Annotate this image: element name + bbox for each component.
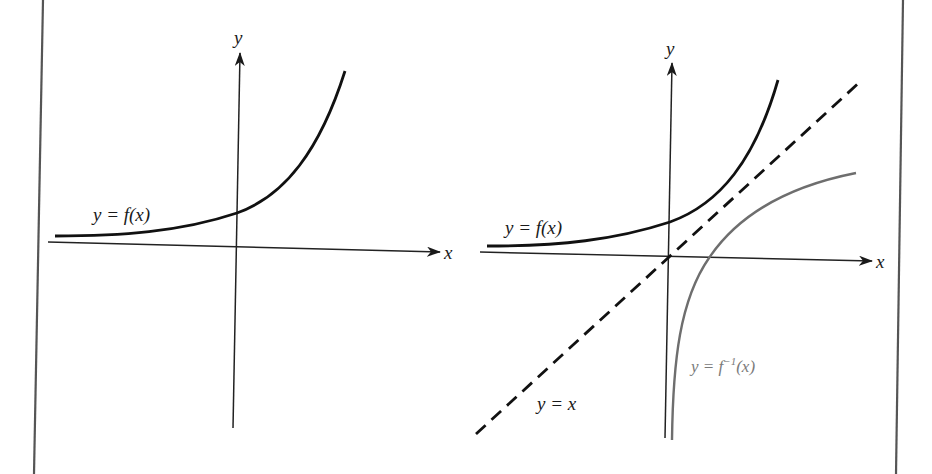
right-y-axis bbox=[665, 63, 672, 438]
left-x-axis-label: x bbox=[443, 242, 453, 263]
right-border bbox=[896, 0, 903, 474]
left-border bbox=[34, 0, 43, 474]
right-f-inverse-label: y = f−1(x) bbox=[689, 355, 755, 376]
inverse-label-prefix: y = f bbox=[689, 357, 726, 376]
right-identity-line bbox=[476, 80, 862, 434]
inverse-label-sup: −1 bbox=[723, 355, 736, 367]
right-y-axis-label: y bbox=[664, 38, 675, 59]
right-f-inverse-curve bbox=[672, 173, 856, 440]
left-y-axis bbox=[233, 53, 240, 428]
right-x-axis-label: x bbox=[875, 251, 885, 272]
inverse-label-suffix: (x) bbox=[736, 357, 755, 376]
right-f-label: y = f(x) bbox=[503, 217, 562, 239]
left-y-axis-label: y bbox=[232, 27, 243, 48]
left-panel: x y y = f(x) bbox=[48, 27, 453, 428]
right-x-axis bbox=[480, 252, 872, 261]
left-f-label: y = f(x) bbox=[91, 204, 150, 226]
right-identity-label: y = x bbox=[535, 393, 577, 414]
inverse-function-figure: x y y = f(x) x y y = x y = f(x) y = f−1(… bbox=[0, 0, 932, 474]
left-x-axis bbox=[48, 242, 440, 252]
right-panel: x y y = x y = f(x) y = f−1(x) bbox=[476, 38, 885, 440]
